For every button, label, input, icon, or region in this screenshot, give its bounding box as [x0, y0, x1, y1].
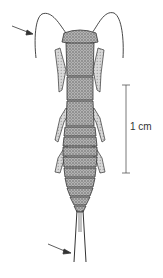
insect-illustration — [0, 0, 163, 278]
cerci — [74, 210, 86, 262]
insect-body — [62, 30, 98, 212]
cerci-arrow-icon — [48, 244, 71, 254]
antenna-arrow-icon — [12, 26, 33, 35]
scale-bar — [122, 85, 130, 173]
scale-bar-label: 1 cm — [130, 121, 152, 132]
